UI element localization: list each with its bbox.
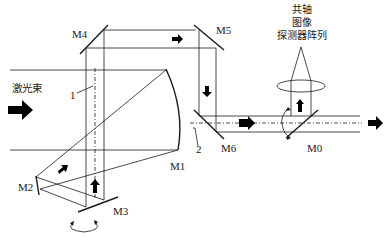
cone-right xyxy=(301,47,311,81)
arrow-up-detector-icon xyxy=(296,99,304,112)
m6-mirror xyxy=(194,110,224,139)
m1-label: M1 xyxy=(170,161,185,172)
axis-rotation-arrow-icon xyxy=(282,108,290,137)
arrow-up-m3-icon xyxy=(90,179,100,193)
arrow-right-top-icon xyxy=(172,34,183,44)
m2-label: M2 xyxy=(18,182,33,193)
arrow-right-axis-icon xyxy=(239,116,255,130)
m6-label: M6 xyxy=(221,143,236,154)
m0-label: M0 xyxy=(307,143,322,154)
detector-label-line1: 共轴 xyxy=(270,3,334,16)
arrow-diagonal-m2-icon xyxy=(58,165,68,174)
lens xyxy=(277,80,325,92)
detector-label-line2: 图像 xyxy=(270,16,334,29)
marker-1-label: 1 xyxy=(70,90,76,101)
laser-beam-label: 激光束 xyxy=(12,83,42,94)
m4-label: M4 xyxy=(72,29,87,40)
laser-input-arrow-icon xyxy=(8,100,33,120)
m3-label: M3 xyxy=(113,206,128,217)
m5-label: M5 xyxy=(216,25,231,36)
block-arrows xyxy=(8,34,383,193)
output-arrow-icon xyxy=(368,116,383,130)
detector-array-label: 共轴 图像 探测器阵列 xyxy=(270,3,334,42)
cone-left xyxy=(291,47,301,81)
m2-mirror xyxy=(36,176,39,195)
marker-2-label: 2 xyxy=(196,144,202,155)
arrow-down-icon xyxy=(202,86,212,97)
m3-rotation-arrow-icon xyxy=(71,223,98,232)
beam-m1-to-m2-upper xyxy=(36,70,166,177)
m3-mirror xyxy=(78,197,118,212)
detector-label-line3: 探测器阵列 xyxy=(270,29,334,42)
m1-curved-mirror xyxy=(166,69,180,150)
leader-1 xyxy=(77,86,93,93)
